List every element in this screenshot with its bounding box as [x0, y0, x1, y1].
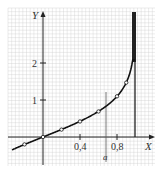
x-tick-label-0.8: 0,8 — [111, 141, 124, 152]
data-point — [41, 135, 44, 138]
x-axis-arrow-icon — [149, 135, 155, 140]
data-point — [115, 95, 118, 98]
data-points — [23, 81, 128, 146]
x-axis-label: X — [144, 140, 153, 152]
x-tick-label-0.4: 0,4 — [74, 141, 87, 152]
data-point — [23, 143, 26, 146]
data-point — [60, 128, 63, 131]
chart: 0,4 0,8 1 2 X Y a — [0, 0, 167, 172]
y-tick-label-1: 1 — [32, 95, 37, 106]
marker-a-label: a — [103, 152, 108, 162]
data-point — [125, 81, 128, 84]
y-tick-label-2: 2 — [32, 58, 37, 69]
data-point — [78, 120, 81, 123]
data-point — [97, 110, 100, 113]
